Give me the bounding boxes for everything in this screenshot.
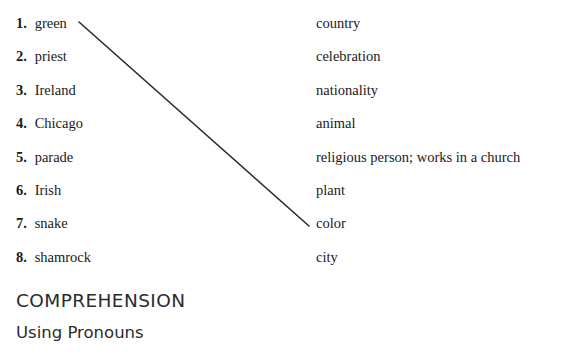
definitions-column: country celebration nationality animal r… — [316, 13, 571, 280]
section-headings: COMPREHENSION Using Pronouns — [16, 288, 416, 346]
term-label: Ireland — [35, 82, 76, 98]
term-number: 3. — [16, 80, 31, 100]
term-label: Chicago — [35, 115, 83, 131]
definition-label: nationality — [316, 82, 378, 98]
definition-label: plant — [316, 182, 345, 198]
definition-row[interactable]: nationality — [316, 80, 571, 113]
definition-row[interactable]: religious person; works in a church — [316, 147, 571, 180]
term-label: Irish — [35, 182, 62, 198]
term-number: 6. — [16, 180, 31, 200]
definition-row[interactable]: animal — [316, 113, 571, 146]
worksheet-page: 1. green 2. priest 3. Ireland 4. Chicago… — [0, 0, 576, 353]
definition-label: country — [316, 15, 360, 31]
terms-column: 1. green 2. priest 3. Ireland 4. Chicago… — [16, 13, 286, 280]
definition-row[interactable]: country — [316, 13, 571, 46]
term-number: 1. — [16, 13, 31, 33]
term-row[interactable]: 5. parade — [16, 147, 286, 180]
term-row[interactable]: 8. shamrock — [16, 247, 286, 280]
term-row[interactable]: 7. snake — [16, 213, 286, 246]
term-label: snake — [35, 215, 68, 231]
definition-label: city — [316, 249, 338, 265]
term-number: 4. — [16, 113, 31, 133]
section-title: COMPREHENSION — [16, 288, 416, 314]
definition-row[interactable]: color — [316, 213, 571, 246]
term-row[interactable]: 1. green — [16, 13, 286, 46]
term-label: shamrock — [35, 249, 91, 265]
definition-label: animal — [316, 115, 355, 131]
term-number: 8. — [16, 247, 31, 267]
term-row[interactable]: 6. Irish — [16, 180, 286, 213]
definition-row[interactable]: celebration — [316, 46, 571, 79]
term-label: priest — [35, 48, 67, 64]
term-number: 5. — [16, 147, 31, 167]
definition-row[interactable]: city — [316, 247, 571, 280]
term-label: parade — [35, 149, 74, 165]
matching-exercise: 1. green 2. priest 3. Ireland 4. Chicago… — [0, 0, 576, 280]
definition-row[interactable]: plant — [316, 180, 571, 213]
section-subtitle: Using Pronouns — [16, 320, 416, 346]
term-number: 2. — [16, 46, 31, 66]
term-number: 7. — [16, 213, 31, 233]
definition-label: religious person; works in a church — [316, 149, 520, 165]
term-label: green — [35, 15, 67, 31]
term-row[interactable]: 4. Chicago — [16, 113, 286, 146]
term-row[interactable]: 3. Ireland — [16, 80, 286, 113]
term-row[interactable]: 2. priest — [16, 46, 286, 79]
definition-label: celebration — [316, 48, 380, 64]
definition-label: color — [316, 215, 346, 231]
